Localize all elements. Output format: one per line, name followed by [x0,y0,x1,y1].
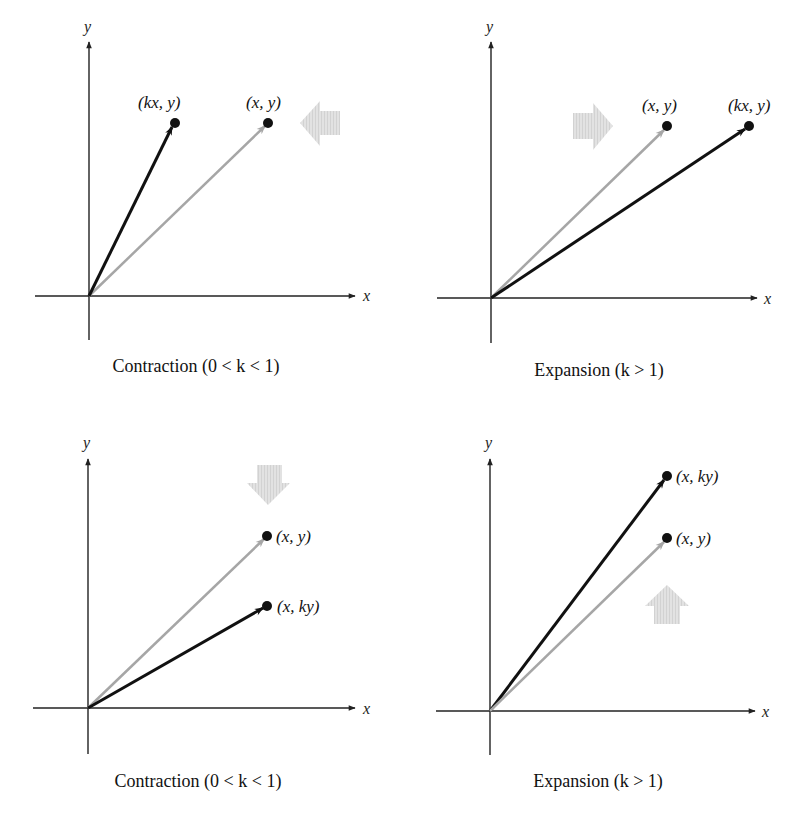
transformed-point-label: (x, ky) [676,467,719,486]
original-point [263,118,273,128]
x-axis-label: x [362,287,370,304]
x-axis-label: x [761,703,769,720]
original-vector [89,126,265,296]
transformed-point-label: (x, ky) [277,597,320,616]
original-point [662,533,672,543]
x-axis-label: x [362,700,370,717]
direction-arrow-left-icon [300,101,340,146]
panel-caption: Expansion (k > 1) [534,360,664,381]
original-point [662,121,672,131]
transformation-figure: x y (kx, y) (x, y) Contraction (0 < k < … [0,0,807,834]
transformed-point [662,471,672,481]
original-point [262,531,272,541]
original-point-label: (x, y) [676,529,711,548]
transformed-vector [491,129,745,298]
transformed-point [262,601,272,611]
transformed-vector [490,480,664,711]
panel-caption: Contraction (0 < k < 1) [113,356,280,377]
panel-vertical-expansion: x y (x, ky) (x, y) Expansion (k > 1) [436,434,769,792]
transformed-point-label: (kx, y) [728,96,771,115]
transformed-point-label: (kx, y) [138,93,181,112]
transformed-vector [89,127,172,296]
transformed-point [744,121,754,131]
y-axis-label: y [82,18,92,36]
panel-horizontal-expansion: x y (x, y) (kx, y) Expansion (k > 1) [437,18,771,381]
original-vector [490,542,664,711]
panel-horizontal-contraction: x y (kx, y) (x, y) Contraction (0 < k < … [35,18,370,377]
panel-vertical-contraction: x y (x, y) (x, ky) Contraction (0 < k < … [33,434,370,792]
y-axis-label: y [484,18,494,36]
direction-arrow-right-icon [573,103,613,150]
original-point-label: (x, y) [246,93,281,112]
panel-caption: Expansion (k > 1) [533,771,663,792]
x-axis-label: x [763,290,771,307]
panel-caption: Contraction (0 < k < 1) [115,771,282,792]
original-point-label: (x, y) [276,527,311,546]
y-axis-label: y [81,434,91,452]
y-axis-label: y [483,434,493,452]
transformed-point [170,118,180,128]
direction-arrow-up-icon [645,585,689,624]
direction-arrow-down-icon [247,465,290,505]
original-point-label: (x, y) [642,96,677,115]
original-vector [491,130,664,298]
